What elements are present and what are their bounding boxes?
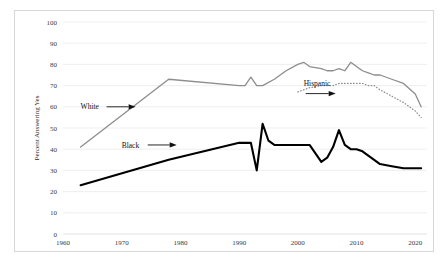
y-tick-label-40: 40 [50, 146, 58, 154]
chart-figure: 0102030405060708090100196019701980199020… [0, 0, 448, 268]
series-line-white [81, 62, 422, 147]
x-tick-label-2020: 2020 [408, 239, 423, 247]
series-annotation-black: Black [122, 141, 140, 150]
x-tick-label-2010: 2010 [350, 239, 365, 247]
y-tick-label-30: 30 [50, 167, 58, 175]
x-tick-label-1990: 1990 [232, 239, 247, 247]
x-tick-label-1960: 1960 [56, 239, 71, 247]
x-tick-label-2000: 2000 [291, 239, 306, 247]
y-tick-label-20: 20 [50, 188, 58, 196]
y-tick-label-60: 60 [50, 103, 58, 111]
series-annotation-hispanic: Hispanic [304, 79, 331, 88]
y-axis-title: Percent Answering Yes [33, 95, 41, 160]
series-line-black [81, 124, 422, 185]
x-tick-label-1980: 1980 [173, 239, 188, 247]
y-tick-label-70: 70 [50, 82, 58, 90]
y-tick-label-0: 0 [54, 231, 58, 239]
line-chart: 0102030405060708090100196019701980199020… [0, 0, 448, 268]
y-tick-label-100: 100 [47, 19, 58, 27]
y-tick-label-80: 80 [50, 61, 58, 69]
y-tick-label-10: 10 [50, 209, 58, 217]
x-tick-label-1970: 1970 [115, 239, 130, 247]
series-annotation-white: White [81, 102, 100, 111]
y-tick-label-50: 50 [50, 125, 58, 133]
annotation-arrow-head-black [170, 142, 177, 147]
series-line-hispanic [298, 83, 421, 117]
annotation-arrow-head-hispanic [329, 91, 336, 96]
y-tick-label-90: 90 [50, 40, 58, 48]
